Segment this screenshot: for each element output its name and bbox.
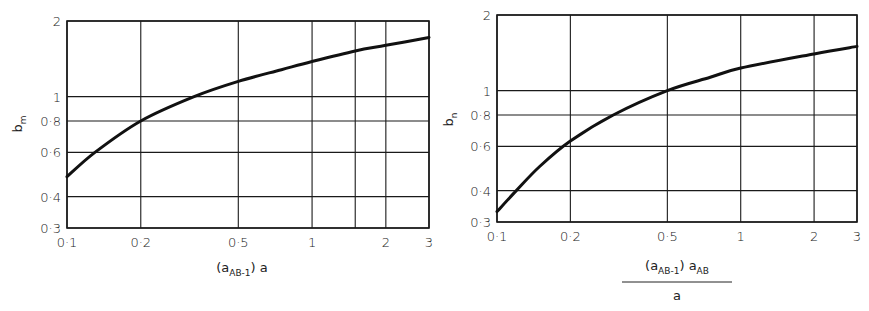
y-tick-label: 2 [483,8,491,23]
x-tick-label: 0·2 [130,235,151,250]
y-tick-label: 0·3 [470,215,491,230]
x-tick-label: 0·5 [228,235,249,250]
grid [497,15,857,222]
y-tick-label: 0·4 [470,184,491,199]
y-axis-ticks: 0·30·40·60·812 [470,8,491,230]
x-tick-label: 0·1 [487,229,508,244]
y-axis-ticks: 0·30·40·60·812 [40,14,61,236]
chart-bn-plot: 0·30·40·60·8120·10·20·5123bn(aAB-1) aABa [440,0,869,311]
y-tick-label: 0·3 [40,221,61,236]
chart-bm: 0·30·40·60·8120·10·20·5123bm(aAB-1) a [0,0,440,311]
x-axis-label-numerator: (aAB-1) aAB [645,258,709,276]
x-tick-label: 2 [382,235,390,250]
y-tick-label: 0·8 [470,108,491,123]
x-axis-label-denominator: a [673,288,681,303]
x-tick-label: 1 [308,235,316,250]
chart-bm-plot: 0·30·40·60·8120·10·20·5123bm(aAB-1) a [0,0,440,311]
chart-bn: 0·30·40·60·8120·10·20·5123bn(aAB-1) aABa [440,0,869,311]
y-tick-label: 2 [53,14,61,29]
data-curve [497,46,857,211]
x-axis-ticks: 0·10·20·5123 [57,235,433,250]
grid [67,21,429,228]
x-tick-label: 0·5 [657,229,678,244]
y-tick-label: 0·4 [40,190,61,205]
x-tick-label: 0·1 [57,235,78,250]
y-tick-label: 0·6 [40,145,61,160]
x-axis-label: (aAB-1) a [216,260,268,278]
y-tick-label: 1 [53,90,61,105]
x-tick-label: 0·2 [560,229,581,244]
y-tick-label: 0·8 [40,114,61,129]
data-curve [67,37,429,176]
y-tick-label: 0·6 [470,139,491,154]
x-tick-label: 2 [810,229,818,244]
x-tick-label: 3 [425,235,433,250]
x-tick-label: 1 [737,229,745,244]
x-axis-ticks: 0·10·20·5123 [487,229,861,244]
x-tick-label: 3 [853,229,861,244]
y-tick-label: 1 [483,84,491,99]
y-axis-label: bm [10,115,28,132]
y-axis-label: bn [441,113,459,127]
